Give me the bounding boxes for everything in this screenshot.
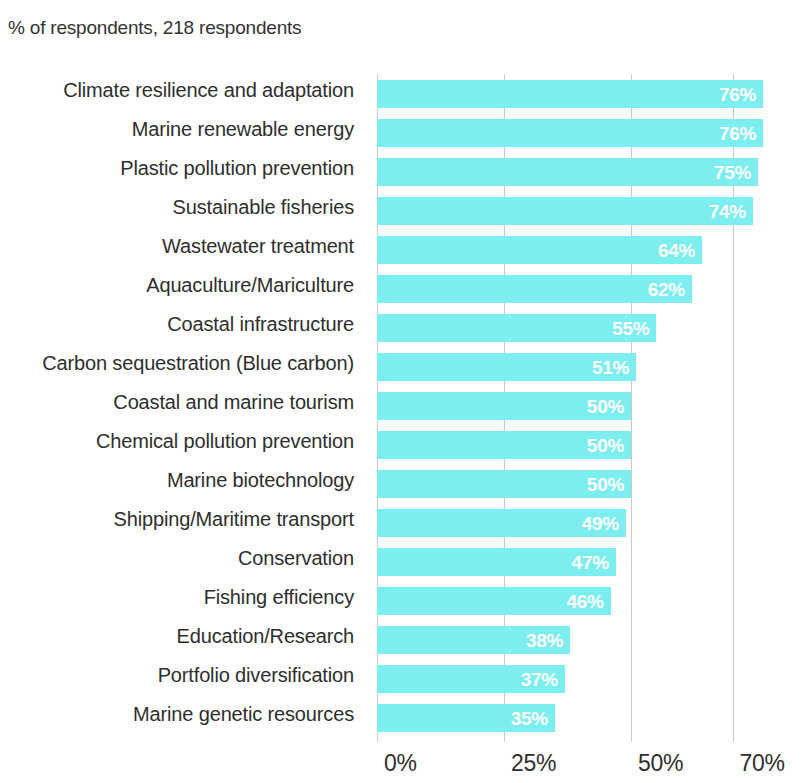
bar-container: 55% bbox=[377, 314, 656, 342]
bar: 62% bbox=[377, 275, 692, 303]
bar-row: Chemical pollution prevention50% bbox=[0, 425, 804, 464]
bar-value-label: 35% bbox=[511, 704, 548, 732]
bar: 50% bbox=[377, 470, 631, 498]
bar-container: 50% bbox=[377, 470, 631, 498]
x-axis-tick-label: 70% bbox=[740, 750, 785, 777]
bar: 51% bbox=[377, 353, 636, 381]
bar: 55% bbox=[377, 314, 656, 342]
bar-rows: Climate resilience and adaptation76%Mari… bbox=[0, 74, 804, 737]
bar-container: 35% bbox=[377, 704, 555, 732]
bar: 74% bbox=[377, 197, 753, 225]
bar-chart: % of respondents, 218 respondents Climat… bbox=[0, 0, 804, 783]
bar: 76% bbox=[377, 119, 763, 147]
bar-container: 75% bbox=[377, 158, 758, 186]
x-axis-tick-label: 25% bbox=[511, 750, 556, 777]
x-axis-tick-label: 0% bbox=[384, 750, 417, 777]
bar-row: Coastal and marine tourism50% bbox=[0, 386, 804, 425]
category-label: Wastewater treatment bbox=[162, 230, 354, 263]
bar-value-label: 50% bbox=[587, 470, 624, 498]
bar-container: 50% bbox=[377, 431, 631, 459]
bar-value-label: 46% bbox=[567, 587, 604, 615]
category-label: Marine renewable energy bbox=[132, 113, 354, 146]
bar-row: Portfolio diversification37% bbox=[0, 659, 804, 698]
category-label: Carbon sequestration (Blue carbon) bbox=[42, 347, 354, 380]
bar-container: 37% bbox=[377, 665, 565, 693]
bar-value-label: 47% bbox=[572, 548, 609, 576]
category-label: Sustainable fisheries bbox=[173, 191, 354, 224]
bar-row: Sustainable fisheries74% bbox=[0, 191, 804, 230]
bar: 38% bbox=[377, 626, 570, 654]
bar: 37% bbox=[377, 665, 565, 693]
bar-row: Plastic pollution prevention75% bbox=[0, 152, 804, 191]
bar-container: 47% bbox=[377, 548, 616, 576]
bar: 50% bbox=[377, 431, 631, 459]
category-label: Aquaculture/Mariculture bbox=[146, 269, 354, 302]
bar: 75% bbox=[377, 158, 758, 186]
bar-row: Marine genetic resources35% bbox=[0, 698, 804, 737]
category-label: Fishing efficiency bbox=[204, 581, 354, 614]
bar-value-label: 75% bbox=[714, 158, 751, 186]
bar: 47% bbox=[377, 548, 616, 576]
bar-value-label: 50% bbox=[587, 431, 624, 459]
bar-value-label: 62% bbox=[648, 275, 685, 303]
bar-row: Carbon sequestration (Blue carbon)51% bbox=[0, 347, 804, 386]
bar-container: 74% bbox=[377, 197, 753, 225]
bar-container: 76% bbox=[377, 80, 763, 108]
bar-value-label: 76% bbox=[719, 80, 756, 108]
plot-area: Climate resilience and adaptation76%Mari… bbox=[0, 74, 804, 742]
category-label: Education/Research bbox=[177, 620, 354, 653]
bar-container: 49% bbox=[377, 509, 626, 537]
chart-subtitle: % of respondents, 218 respondents bbox=[8, 16, 301, 40]
bar: 64% bbox=[377, 236, 702, 264]
bar: 50% bbox=[377, 392, 631, 420]
category-label: Coastal infrastructure bbox=[167, 308, 354, 341]
category-label: Shipping/Maritime transport bbox=[113, 503, 354, 536]
category-label: Coastal and marine tourism bbox=[113, 386, 354, 419]
x-axis-tick-label: 50% bbox=[638, 750, 683, 777]
bar-value-label: 38% bbox=[526, 626, 563, 654]
category-label: Climate resilience and adaptation bbox=[63, 74, 354, 107]
bar-row: Coastal infrastructure55% bbox=[0, 308, 804, 347]
category-label: Conservation bbox=[238, 542, 354, 575]
category-label: Plastic pollution prevention bbox=[120, 152, 354, 185]
bar-row: Fishing efficiency46% bbox=[0, 581, 804, 620]
bar-value-label: 64% bbox=[658, 236, 695, 264]
bar: 46% bbox=[377, 587, 611, 615]
bar-row: Wastewater treatment64% bbox=[0, 230, 804, 269]
bar-row: Aquaculture/Mariculture62% bbox=[0, 269, 804, 308]
bar-value-label: 55% bbox=[612, 314, 649, 342]
bar: 35% bbox=[377, 704, 555, 732]
bar: 49% bbox=[377, 509, 626, 537]
bar-row: Marine biotechnology50% bbox=[0, 464, 804, 503]
category-label: Portfolio diversification bbox=[158, 659, 354, 692]
bar-container: 46% bbox=[377, 587, 611, 615]
bar-row: Education/Research38% bbox=[0, 620, 804, 659]
bar-container: 76% bbox=[377, 119, 763, 147]
bar-value-label: 49% bbox=[582, 509, 619, 537]
bar-value-label: 37% bbox=[521, 665, 558, 693]
category-label: Marine genetic resources bbox=[133, 698, 354, 731]
bar: 76% bbox=[377, 80, 763, 108]
bar-value-label: 50% bbox=[587, 392, 624, 420]
category-label: Chemical pollution prevention bbox=[96, 425, 354, 458]
bar-container: 62% bbox=[377, 275, 692, 303]
bar-row: Marine renewable energy76% bbox=[0, 113, 804, 152]
bar-value-label: 74% bbox=[709, 197, 746, 225]
bar-container: 51% bbox=[377, 353, 636, 381]
bar-container: 50% bbox=[377, 392, 631, 420]
bar-container: 64% bbox=[377, 236, 702, 264]
x-axis: 0%25%50%70% bbox=[0, 742, 804, 783]
bar-container: 38% bbox=[377, 626, 570, 654]
category-label: Marine biotechnology bbox=[167, 464, 354, 497]
bar-value-label: 76% bbox=[719, 119, 756, 147]
bar-value-label: 51% bbox=[592, 353, 629, 381]
bar-row: Conservation47% bbox=[0, 542, 804, 581]
bar-row: Climate resilience and adaptation76% bbox=[0, 74, 804, 113]
bar-row: Shipping/Maritime transport49% bbox=[0, 503, 804, 542]
